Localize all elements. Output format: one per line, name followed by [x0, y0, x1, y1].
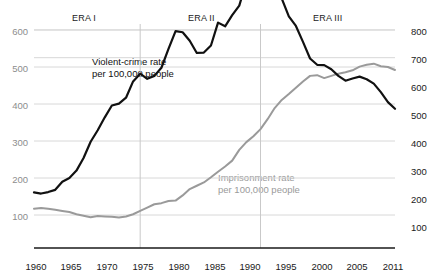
series-line-violent-crime — [34, 0, 395, 194]
plot-area — [0, 0, 439, 277]
gridlines — [34, 30, 395, 215]
chart-container: ERA I ERA II ERA III 600 500 400 300 200… — [0, 0, 439, 277]
